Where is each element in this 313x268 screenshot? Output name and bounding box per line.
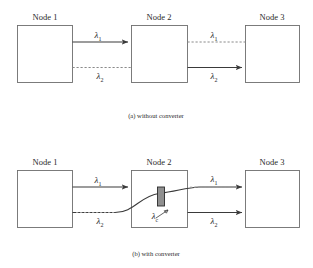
panel-a-label-lambda2-right-sub: 2	[214, 77, 217, 83]
panel-a-node-1-title: Node 1	[33, 12, 58, 22]
panel-a-caption: (a) without converter	[128, 112, 184, 120]
panel-a-node-3-box	[246, 26, 300, 83]
panel-b-label-lambda1-right: λ1	[210, 174, 218, 186]
panel-b-label-lambda2-right: λ2	[210, 216, 218, 228]
panel-a-label-lambda2-left: λ2	[96, 71, 104, 83]
panel-b-node-3-box	[246, 171, 300, 228]
panel-b-label-lambda2-left-sub: 2	[100, 222, 103, 228]
panel-a-label-lambda1-right: λ1	[210, 30, 218, 42]
panel-a-label-lambda2-left-sub: 2	[100, 77, 103, 83]
panel-b-label-lambda2-right-sub: 2	[214, 222, 217, 228]
panel-a-node-1-box	[18, 26, 73, 83]
panel-b-node-2-title: Node 2	[147, 157, 172, 167]
panel-a-node-2-box	[132, 26, 188, 83]
panel-b-caption: (b) with converter	[132, 250, 180, 258]
panel-a-label-lambda2-right: λ2	[210, 71, 218, 83]
panel-b-node-3-title: Node 3	[260, 157, 285, 167]
panel-b-label-lambda2-left: λ2	[96, 216, 104, 228]
panel-a-node-3-title: Node 3	[260, 12, 285, 22]
panel-a: Node 1 Node 2 Node 3 λ1 λ2 λ1 λ2	[18, 12, 300, 120]
panel-b-converter-box	[158, 187, 165, 206]
panel-b-node-1-title: Node 1	[33, 157, 58, 167]
panel-a-node-2-title: Node 2	[147, 12, 172, 22]
panel-a-label-lambda1-left: λ1	[94, 30, 102, 42]
panel-a-label-lambda1-right-sub: 1	[214, 36, 217, 42]
figure-root: Node 1 Node 2 Node 3 λ1 λ2 λ1 λ2	[0, 0, 313, 268]
panel-b-node-1-box	[18, 171, 73, 228]
network-converter-diagram: Node 1 Node 2 Node 3 λ1 λ2 λ1 λ2	[0, 0, 313, 268]
panel-b-label-lambda1-left-sub: 1	[98, 181, 101, 187]
panel-b: Node 1 Node 2 Node 3 λ1 λ2 λ1 λ2	[18, 157, 300, 258]
panel-a-label-lambda1-left-sub: 1	[98, 36, 101, 42]
panel-b-label-lambda1-right-sub: 1	[214, 180, 217, 186]
panel-b-label-lambda1-left: λ1	[94, 175, 102, 187]
panel-b-converter-label-sub: c	[156, 217, 159, 223]
